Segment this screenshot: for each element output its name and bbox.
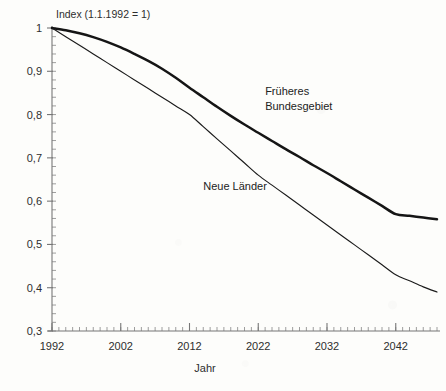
series-line-neue-laender [52,28,437,292]
x-axis-minor-ticks [52,327,437,331]
x-tick-label: 2022 [246,340,270,352]
y-tick-label: 1 [36,22,42,34]
y-axis-minor-ticks [52,28,56,331]
x-axis-tick-labels: 199220022012202220322042 [40,340,408,352]
y-axis-tick-labels: 0,30,40,50,60,70,80,91 [27,22,42,337]
chart-container: 199220022012202220322042 0,30,40,50,60,7… [0,0,446,391]
x-tick-label: 2012 [177,340,201,352]
y-tick-label: 0,5 [27,238,42,250]
series-annotation-frueheres-bundesgebiet-line1: Früheres [265,85,310,97]
x-tick-label: 2042 [384,340,408,352]
series-annotation-frueheres-bundesgebiet-line2: Bundesgebiet [265,100,332,112]
y-tick-label: 0,8 [27,109,42,121]
x-tick-label: 2032 [315,340,339,352]
series-annotation-neue-laender: Neue Länder [203,180,267,192]
x-axis-title: Jahr [194,362,216,374]
y-tick-label: 0,4 [27,282,42,294]
y-tick-label: 0,6 [27,195,42,207]
index-note-label: Index (1.1.1992 = 1) [56,8,150,20]
x-tick-label: 2002 [109,340,133,352]
y-tick-label: 0,9 [27,65,42,77]
x-tick-label: 1992 [40,340,64,352]
line-chart-plot: 199220022012202220322042 0,30,40,50,60,7… [0,0,446,391]
y-tick-label: 0,7 [27,152,42,164]
y-tick-label: 0,3 [27,325,42,337]
